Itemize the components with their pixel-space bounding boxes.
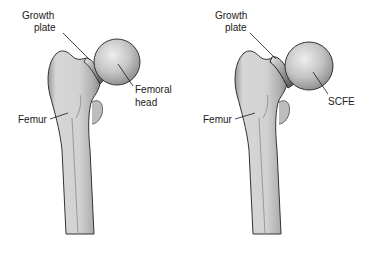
femur-bone	[235, 51, 287, 234]
lesser-trochanter	[92, 101, 103, 124]
scfe-femur-panel: Growth plate SCFE Femur	[203, 10, 355, 234]
growth-plate-label: Growth	[22, 10, 54, 21]
growth-plate-label: plate	[34, 22, 56, 33]
lesser-trochanter	[279, 101, 290, 124]
femur-bone	[48, 51, 100, 234]
femoral-head	[94, 39, 140, 85]
normal-femur-panel: Growth plate Femoral head Femur	[18, 10, 172, 234]
growth-plate-label: Growth	[215, 10, 247, 21]
femoral-head-label: Femoral	[135, 84, 172, 95]
slipped-femoral-head	[285, 42, 333, 90]
femur-label: Femur	[18, 114, 48, 125]
scfe-label: SCFE	[328, 96, 355, 107]
femoral-head-label: head	[135, 97, 157, 108]
hip-diagram: Growth plate Femoral head Femur Growth p…	[0, 0, 369, 261]
growth-plate-label: plate	[225, 22, 247, 33]
femur-label: Femur	[203, 114, 233, 125]
